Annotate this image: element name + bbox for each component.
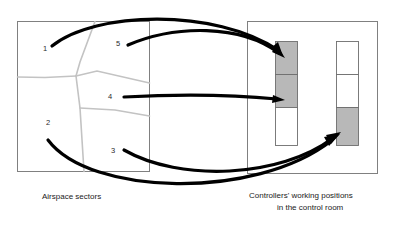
airspace-sector-mapping-diagram: 1 2 3 4 5 bbox=[0, 0, 396, 227]
control-room-caption-line-1: Controllers' working positions bbox=[249, 191, 353, 200]
sector-label-2: 2 bbox=[46, 118, 50, 127]
working-position-right bbox=[337, 42, 359, 146]
sector-label-1: 1 bbox=[43, 44, 47, 53]
airspace-sectors-caption: Airspace sectors bbox=[42, 192, 101, 201]
sector-label-5: 5 bbox=[116, 39, 120, 48]
sector-label-3: 3 bbox=[111, 146, 115, 155]
working-position-right-cell-2 bbox=[337, 75, 359, 108]
working-position-left-cell-2 bbox=[276, 75, 298, 108]
working-position-right-cell-1 bbox=[337, 42, 359, 75]
working-position-left-cell-3 bbox=[276, 108, 298, 146]
working-position-right-cell-3 bbox=[337, 108, 359, 146]
sector-label-4: 4 bbox=[108, 92, 112, 101]
control-room-caption-line-2: in the control room bbox=[277, 203, 344, 212]
working-position-left bbox=[276, 42, 298, 146]
